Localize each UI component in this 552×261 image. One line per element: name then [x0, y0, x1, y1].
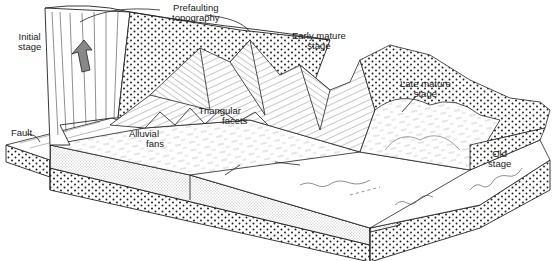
label-alluvial-fans: Alluvial fans: [124, 129, 164, 149]
label-late-mature-stage: Late mature stage: [400, 79, 451, 99]
label-early-mature-stage: Early mature stage: [292, 31, 346, 51]
label-triangular-facets: Triangular facets: [192, 106, 247, 126]
label-fault: Fault: [11, 128, 32, 138]
label-initial-stage: Initial stage: [18, 32, 41, 52]
label-old-stage: Old stage: [488, 149, 511, 169]
fault-block-diagram: [0, 0, 552, 261]
label-prefaulting-topography: Prefaulting topography: [172, 3, 220, 23]
